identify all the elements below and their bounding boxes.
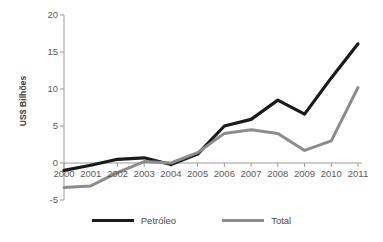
- x-tick-label: 2003: [129, 169, 159, 179]
- line-chart: US$ Bilhões -5 0 5 10 15 20 200020012002…: [0, 0, 383, 242]
- x-tick-label: 2005: [183, 169, 213, 179]
- x-tick-label: 2001: [76, 169, 106, 179]
- legend-swatch-petroleo: [92, 219, 134, 222]
- x-tick-label: 2004: [156, 169, 186, 179]
- x-tick-label: 2009: [290, 169, 320, 179]
- series-lines: [64, 44, 358, 188]
- legend-item-petroleo[interactable]: Petróleo: [92, 216, 176, 226]
- y-tick-label: -5: [32, 195, 58, 205]
- legend-label-total: Total: [271, 216, 291, 226]
- y-tick-label: 0: [32, 158, 58, 168]
- chart-legend: Petróleo Total: [0, 216, 383, 226]
- x-tick-label: 2007: [236, 169, 266, 179]
- x-tick-label: 2008: [263, 169, 293, 179]
- legend-item-total[interactable]: Total: [222, 216, 291, 226]
- x-tick-label: 2000: [49, 169, 79, 179]
- y-tick-label: 5: [32, 121, 58, 131]
- x-tick-label: 2011: [343, 169, 373, 179]
- y-axis-title: US$ Bilhões: [18, 56, 28, 146]
- legend-label-petroleo: Petróleo: [141, 216, 176, 226]
- y-tick-label: 10: [32, 84, 58, 94]
- x-tick-label: 2010: [316, 169, 346, 179]
- y-tick-label: 20: [32, 10, 58, 20]
- series-line-petróleo: [64, 44, 358, 171]
- y-axis-tick-labels: -5 0 5 10 15 20: [30, 0, 58, 242]
- legend-swatch-total: [222, 219, 264, 222]
- x-tick-label: 2006: [209, 169, 239, 179]
- x-tick-label: 2002: [102, 169, 132, 179]
- y-tick-label: 15: [32, 47, 58, 57]
